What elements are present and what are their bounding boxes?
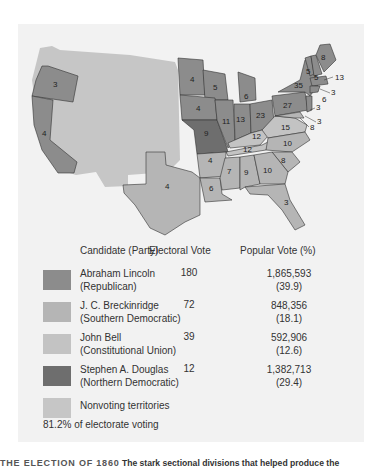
svg-text:13: 13 (335, 73, 344, 82)
swatch-territories (43, 398, 71, 418)
svg-text:8: 8 (321, 53, 326, 62)
electoral-vote: 39 (169, 331, 209, 342)
svg-text:3: 3 (53, 80, 58, 89)
svg-text:6: 6 (322, 95, 327, 104)
svg-text:7: 7 (227, 167, 232, 176)
svg-text:15: 15 (281, 123, 290, 132)
electoral-vote: 12 (169, 363, 209, 374)
popular-vote: 1,865,593(39.9) (244, 267, 334, 293)
svg-text:9: 9 (244, 168, 249, 177)
candidate-name: John Bell(Constitutional Union) (80, 331, 176, 357)
svg-text:4: 4 (196, 104, 201, 113)
svg-text:35: 35 (294, 81, 303, 90)
svg-text:8: 8 (281, 156, 286, 165)
electoral-vote: 180 (169, 267, 209, 278)
svg-text:8: 8 (310, 123, 315, 132)
svg-text:5: 5 (314, 73, 319, 82)
svg-text:12: 12 (252, 132, 261, 141)
svg-text:27: 27 (283, 101, 292, 110)
svg-text:3: 3 (317, 117, 322, 126)
legend-row-bell: John Bell(Constitutional Union) 39 592,9… (18, 331, 364, 365)
election-map: 3 4 4 5 4 6 11 13 23 27 35 8 5 5 13 3 6 … (0, 0, 369, 240)
svg-text:10: 10 (283, 139, 292, 148)
legend-row-lincoln: Abraham Lincoln(Republican) 180 1,865,59… (18, 267, 364, 301)
svg-text:4: 4 (190, 75, 195, 84)
svg-text:4: 4 (165, 182, 170, 191)
svg-text:5: 5 (213, 83, 218, 92)
caption-text: The stark sectional divisions that helpe… (122, 458, 339, 468)
state-florida (245, 184, 305, 230)
swatch-lincoln (43, 270, 71, 290)
svg-text:9: 9 (204, 129, 209, 138)
figure-caption: THE ELECTION OF 1860 The stark sectional… (0, 458, 369, 468)
legend-row-breckinridge: J. C. Breckinridge(Southern Democratic) … (18, 299, 364, 333)
territories-label: Nonvoting territories (80, 399, 169, 412)
state-connecticut (310, 86, 320, 93)
svg-text:11: 11 (222, 117, 231, 126)
swatch-breckinridge (43, 302, 71, 322)
caption-title: THE ELECTION OF 1860 (0, 458, 120, 468)
popular-vote: 1,382,713(29.4) (244, 363, 334, 389)
swatch-bell (43, 334, 71, 354)
candidate-name: J. C. Breckinridge(Southern Democratic) (80, 299, 181, 325)
svg-text:23: 23 (256, 111, 265, 120)
svg-text:3: 3 (316, 103, 321, 112)
popular-vote: 848,356(18.1) (244, 299, 334, 325)
svg-text:6: 6 (244, 92, 249, 101)
candidate-name: Stephen A. Douglas(Northern Democratic) (80, 363, 179, 389)
svg-text:6: 6 (209, 184, 214, 193)
turnout-note: 81.2% of electorate voting (43, 419, 159, 430)
svg-text:4: 4 (42, 129, 47, 138)
header-popular: Popular Vote (%) (240, 245, 316, 256)
svg-text:5: 5 (306, 67, 311, 76)
header-candidate: Candidate (Party) (80, 245, 158, 256)
svg-text:13: 13 (236, 115, 245, 124)
electoral-vote: 72 (169, 299, 209, 310)
popular-vote: 592,906(12.6) (244, 331, 334, 357)
svg-text:10: 10 (263, 166, 272, 175)
svg-text:4: 4 (208, 156, 213, 165)
candidate-name: Abraham Lincoln(Republican) (80, 267, 155, 293)
swatch-douglas (43, 366, 71, 386)
svg-text:3: 3 (331, 88, 336, 97)
legend-row-douglas: Stephen A. Douglas(Northern Democratic) … (18, 363, 364, 397)
svg-text:12: 12 (243, 145, 252, 154)
state-massachusetts (310, 76, 328, 86)
header-electoral: Electoral Vote (149, 245, 211, 256)
svg-text:3: 3 (284, 198, 289, 207)
